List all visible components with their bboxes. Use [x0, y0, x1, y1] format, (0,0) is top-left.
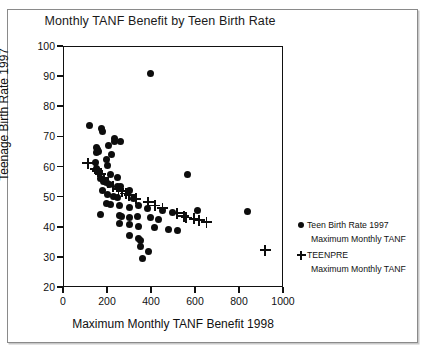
data-point-circle — [139, 255, 146, 262]
dot-marker-icon — [295, 218, 307, 232]
data-point-circle — [126, 221, 133, 228]
data-point-circle — [116, 202, 123, 209]
data-point-circle — [116, 220, 123, 227]
plot-area: 2030405060708090100 02004006008001000 — [63, 46, 283, 287]
legend-series-sublabel: Maximum Monthly TANF — [311, 262, 415, 276]
marker-glyph — [297, 251, 306, 260]
y-tick-label: 20 — [43, 281, 55, 293]
y-tick-label: 50 — [43, 191, 55, 203]
x-tick-label: 600 — [186, 295, 204, 307]
data-point-circle — [137, 243, 144, 250]
y-tick-label: 80 — [43, 100, 55, 112]
data-point-circle — [114, 174, 121, 181]
data-point-plus — [260, 245, 271, 256]
data-point-circle — [147, 214, 154, 221]
x-tick-label: 800 — [230, 295, 248, 307]
y-tick — [57, 105, 63, 107]
y-tick — [57, 196, 63, 198]
plus-marker-icon — [295, 248, 307, 262]
legend-row: TEENPRE — [295, 248, 415, 262]
legend-row: Teen Birth Rate 1997 — [295, 218, 415, 232]
legend-series-sublabel: Maximum Monthly TANF — [311, 232, 415, 246]
y-tick — [57, 226, 63, 228]
data-point-circle — [97, 211, 104, 218]
x-tick — [238, 287, 240, 293]
y-tick — [57, 136, 63, 138]
x-tick-label: 200 — [98, 295, 116, 307]
x-tick — [62, 287, 64, 293]
data-point-circle — [155, 216, 162, 223]
x-tick — [194, 287, 196, 293]
data-point-circle — [126, 232, 133, 239]
x-tick — [282, 287, 284, 293]
y-tick-label: 70 — [43, 130, 55, 142]
data-point-plus — [130, 193, 141, 204]
chart-legend: Teen Birth Rate 1997Maximum Monthly TANF… — [295, 218, 415, 278]
y-tick — [57, 45, 63, 47]
x-tick-label: 0 — [60, 295, 66, 307]
data-point-circle — [95, 148, 102, 155]
x-tick-label: 400 — [142, 295, 160, 307]
data-point-plus — [201, 217, 212, 228]
data-point-circle — [126, 204, 133, 211]
x-axis-label: Maximum Monthly TANF Benefit 1998 — [63, 317, 283, 331]
legend-entry: TEENPREMaximum Monthly TANF — [295, 248, 415, 276]
y-tick — [57, 166, 63, 168]
data-point-circle — [174, 227, 181, 234]
chart-title: Monthly TANF Benefit by Teen Birth Rate — [0, 14, 320, 28]
y-tick-label: 40 — [43, 221, 55, 233]
legend-series-name: Teen Birth Rate 1997 — [307, 218, 389, 232]
marker-glyph — [298, 222, 304, 228]
y-tick-label: 100 — [37, 40, 55, 52]
y-tick-label: 60 — [43, 161, 55, 173]
data-point-circle — [147, 70, 154, 77]
data-point-circle — [165, 226, 172, 233]
y-tick — [57, 75, 63, 77]
y-tick-label: 90 — [43, 70, 55, 82]
y-tick — [57, 256, 63, 258]
data-point-circle — [107, 201, 114, 208]
legend-series-name: TEENPRE — [307, 248, 348, 262]
x-tick-label: 1000 — [271, 295, 294, 307]
legend-entry: Teen Birth Rate 1997Maximum Monthly TANF — [295, 218, 415, 246]
x-tick — [106, 287, 108, 293]
data-point-circle — [126, 214, 133, 221]
y-axis-label: Teenage Birth Rate 1997 — [0, 48, 11, 181]
data-point-circle — [135, 223, 142, 230]
data-point-circle — [86, 122, 93, 129]
y-tick-label: 30 — [43, 251, 55, 263]
x-tick — [150, 287, 152, 293]
data-point-circle — [145, 248, 152, 255]
data-point-plus — [157, 203, 168, 214]
